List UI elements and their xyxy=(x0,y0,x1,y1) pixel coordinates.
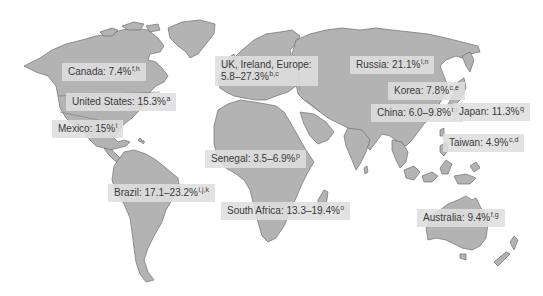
tasmania-shape xyxy=(460,254,466,260)
label-japan: Japan: 11.3%q xyxy=(453,103,530,121)
label-south-africa: South Africa: 13.3–19.4%o xyxy=(221,202,350,220)
label-china: China: 6.0–9.8%m xyxy=(371,104,463,122)
label-mexico: Mexico: 15%i xyxy=(52,120,123,138)
label-korea: Korea: 7.8%c,e xyxy=(388,82,465,100)
label-canada: Canada: 7.4%f,h xyxy=(62,63,146,81)
caribbean-island xyxy=(142,141,145,144)
caribbean-island xyxy=(138,138,141,141)
label-australia: Australia: 9.4%f,g xyxy=(417,209,505,227)
world-map-figure: Canada: 7.4%f,h United States: 15.3%a Me… xyxy=(0,0,543,296)
africa-shape xyxy=(214,100,314,242)
new-zealand-shape xyxy=(494,236,518,266)
label-russia: Russia: 21.1%l,n xyxy=(350,56,434,74)
south-america-shape xyxy=(112,150,180,282)
label-senegal: Senegal: 3.5–6.9%p xyxy=(205,150,306,168)
kamchatka-shape xyxy=(462,52,474,72)
label-uk-europe: UK, Ireland, Europe: 5.8–27.3%b,c xyxy=(215,56,318,86)
label-brazil: Brazil: 17.1–23.2%i,j,k xyxy=(108,184,215,202)
label-united-states: United States: 15.3%a xyxy=(66,93,176,111)
sri-lanka-shape xyxy=(364,166,368,174)
label-taiwan: Taiwan: 4.9%c,d xyxy=(443,134,524,152)
greenland-shape xyxy=(168,20,215,58)
